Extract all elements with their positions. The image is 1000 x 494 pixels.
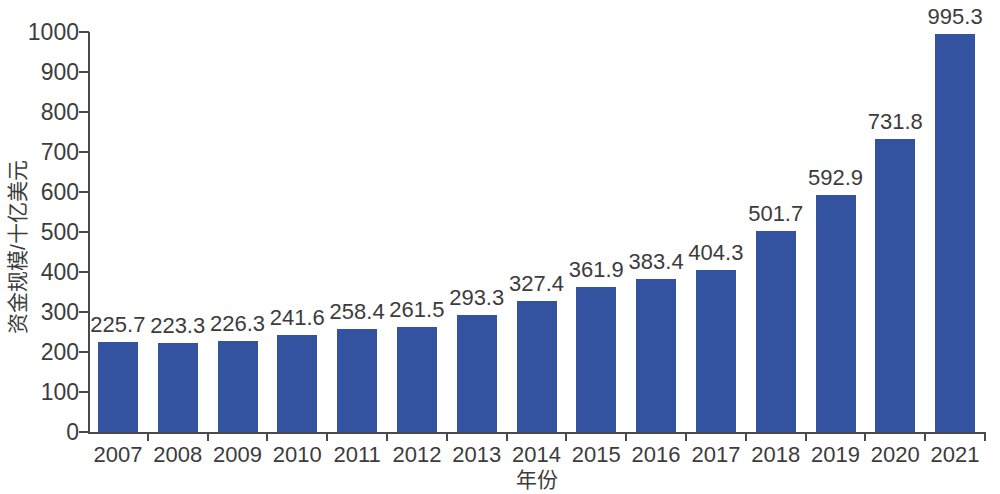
bar-value-label: 225.7 — [90, 312, 145, 338]
bar-value-label: 383.4 — [629, 249, 684, 275]
bar: 995.3 — [935, 34, 975, 432]
bar-chart: 资金规模/十亿美元 010020030040050060070080090010… — [0, 0, 1000, 494]
bar: 383.4 — [636, 279, 676, 432]
bar-value-label: 404.3 — [688, 240, 743, 266]
bar: 361.9 — [576, 287, 616, 432]
y-axis-tick-mark — [79, 71, 89, 73]
y-axis-tick-label: 0 — [66, 419, 79, 446]
y-axis-tick-label: 100 — [41, 379, 79, 406]
x-axis-tick-mark — [864, 432, 866, 441]
bar: 225.7 — [98, 342, 138, 432]
bar: 223.3 — [158, 343, 198, 432]
y-axis-tick: 200 — [88, 351, 98, 353]
x-axis-tick-mark — [207, 432, 209, 441]
y-axis-tick-label: 900 — [41, 59, 79, 86]
bar-value-label: 592.9 — [808, 165, 863, 191]
x-axis-line — [88, 432, 985, 434]
bar: 327.4 — [517, 301, 557, 432]
y-axis-tick: 400 — [88, 271, 98, 273]
y-axis-tick-mark — [79, 351, 89, 353]
bar-value-label: 241.6 — [270, 305, 325, 331]
x-axis-tick-mark — [446, 432, 448, 441]
y-axis-tick-label: 1000 — [28, 19, 79, 46]
bar: 592.9 — [816, 195, 856, 432]
y-axis-title: 资金规模/十亿美元 — [0, 0, 33, 494]
bar: 404.3 — [696, 270, 736, 432]
bar: 226.3 — [218, 341, 258, 432]
y-axis-tick-mark — [79, 191, 89, 193]
y-axis-tick: 900 — [88, 71, 98, 73]
y-axis-tick: 500 — [88, 231, 98, 233]
x-axis-tick-mark — [745, 432, 747, 441]
plot-area: 01002003004005006007008009001000 225.722… — [88, 32, 985, 434]
y-axis-line — [88, 32, 90, 434]
y-axis-tick-mark — [79, 271, 89, 273]
y-axis-tick: 700 — [88, 151, 98, 153]
y-axis-tick: 0 — [88, 431, 98, 433]
y-axis-tick-label: 800 — [41, 99, 79, 126]
bar-value-label: 731.8 — [868, 109, 923, 135]
bar-value-label: 361.9 — [569, 257, 624, 283]
y-axis-tick: 1000 — [88, 31, 98, 33]
bar-value-label: 501.7 — [748, 201, 803, 227]
y-axis-tick-label: 300 — [41, 299, 79, 326]
y-axis-tick: 800 — [88, 111, 98, 113]
bar-value-label: 995.3 — [928, 4, 983, 30]
bar-value-label: 261.5 — [389, 297, 444, 323]
x-axis-title: 年份 — [88, 463, 985, 493]
y-axis-tick-mark — [79, 111, 89, 113]
y-axis-tick-label: 500 — [41, 219, 79, 246]
y-axis-tick-mark — [79, 31, 89, 33]
y-axis-tick: 600 — [88, 191, 98, 193]
y-axis-tick-label: 400 — [41, 259, 79, 286]
bar: 261.5 — [397, 327, 437, 432]
y-axis-tick-mark — [79, 151, 89, 153]
bar: 501.7 — [756, 231, 796, 432]
bar-value-label: 258.4 — [330, 299, 385, 325]
bar-value-label: 223.3 — [150, 313, 205, 339]
x-axis-tick-mark — [386, 432, 388, 441]
x-axis-tick-mark — [565, 432, 567, 441]
bar: 241.6 — [277, 335, 317, 432]
x-axis-tick-mark — [326, 432, 328, 441]
bar: 258.4 — [337, 329, 377, 432]
x-axis-tick-mark — [924, 432, 926, 441]
bar: 293.3 — [457, 315, 497, 432]
x-axis-tick-mark — [805, 432, 807, 441]
y-axis-tick-label: 600 — [41, 179, 79, 206]
x-axis-tick-mark — [984, 432, 986, 441]
y-axis-title-container: 资金规模/十亿美元 — [0, 0, 35, 460]
bar-value-label: 226.3 — [210, 311, 265, 337]
bar-value-label: 327.4 — [509, 271, 564, 297]
y-axis-tick-mark — [79, 391, 89, 393]
x-axis-tick-mark — [266, 432, 268, 441]
x-axis-tick-mark — [685, 432, 687, 441]
bar: 731.8 — [875, 139, 915, 432]
y-axis-tick-mark — [79, 311, 89, 313]
x-axis-tick-mark — [506, 432, 508, 441]
x-axis-tick-mark — [625, 432, 627, 441]
y-axis-tick-label: 700 — [41, 139, 79, 166]
y-axis-tick-mark — [79, 431, 89, 433]
x-axis-tick-mark — [147, 432, 149, 441]
y-axis-tick-mark — [79, 231, 89, 233]
y-axis-tick-label: 200 — [41, 339, 79, 366]
y-axis-tick: 100 — [88, 391, 98, 393]
bar-value-label: 293.3 — [449, 285, 504, 311]
